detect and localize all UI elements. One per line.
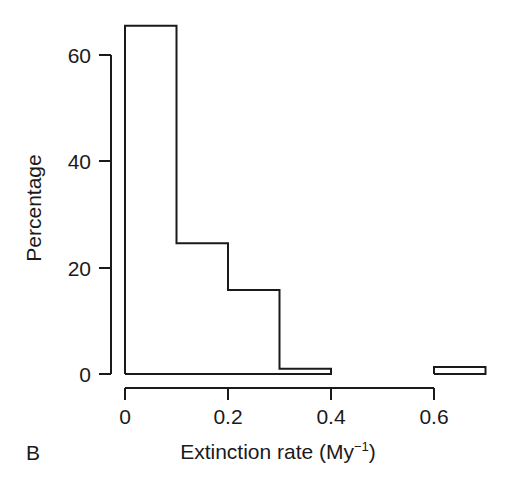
histogram-outline-detached-bar	[434, 367, 486, 374]
y-axis-ticks	[99, 55, 111, 374]
histogram-outline	[125, 26, 331, 374]
y-axis-title: Percentage	[22, 154, 46, 261]
x-axis-title-text: Extinction rate (My	[180, 440, 354, 463]
x-axis-tick-label: 0.2	[213, 406, 242, 427]
y-axis-tick-label: 20	[68, 257, 91, 278]
x-axis-tick-label: 0.6	[419, 406, 448, 427]
x-axis-tick-label: 0	[119, 406, 131, 427]
x-axis-ticks	[125, 388, 434, 400]
x-axis-title-exponent: −1	[354, 439, 369, 454]
y-axis-tick-label: 60	[68, 44, 91, 65]
y-axis-tick-label: 40	[68, 151, 91, 172]
figure-panel-b: 0204060 00.20.40.6 Percentage Extinction…	[0, 0, 511, 493]
y-axis-tick-label: 0	[79, 364, 91, 385]
x-axis-tick-label: 0.4	[316, 406, 345, 427]
x-axis-title: Extinction rate (My−1)	[180, 440, 376, 464]
x-axis-title-suffix: )	[369, 440, 376, 463]
panel-label: B	[26, 441, 40, 465]
